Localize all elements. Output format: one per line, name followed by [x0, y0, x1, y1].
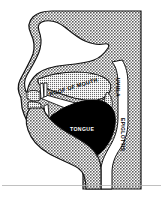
label-tongue: TONGUE: [70, 126, 94, 132]
upper-teeth: [40, 83, 47, 99]
label-epiglottis: EPIGLOTTIS: [120, 118, 126, 152]
upper-lip: [27, 91, 40, 102]
vocal-tract-diagram: ROOF OF MOUTH UVULA EPIGLOTTIS TONGUE: [0, 0, 163, 200]
label-uvula: UVULA: [115, 78, 121, 97]
vocal-tract-svg: ROOF OF MOUTH UVULA EPIGLOTTIS TONGUE: [0, 0, 163, 200]
upper-incisor-2: [44, 83, 47, 97]
upper-incisor-1: [40, 83, 44, 99]
